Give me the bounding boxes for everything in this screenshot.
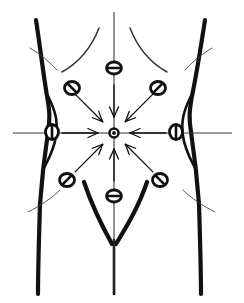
point-left (46, 125, 59, 140)
point-bottom-center (107, 190, 122, 202)
point-lower-right (153, 174, 168, 187)
point-lower-left (60, 174, 75, 187)
navel-inner-dot (112, 131, 116, 135)
anatomy-figure-root: Abdominal acupuncture point diagram Line… (0, 0, 244, 303)
anatomy-diagram: Abdominal acupuncture point diagram Line… (0, 0, 244, 303)
point-upper-right (151, 82, 166, 95)
point-upper-left (65, 82, 80, 95)
point-top-center (107, 62, 122, 74)
point-right (170, 125, 183, 140)
navel-point (110, 129, 119, 138)
